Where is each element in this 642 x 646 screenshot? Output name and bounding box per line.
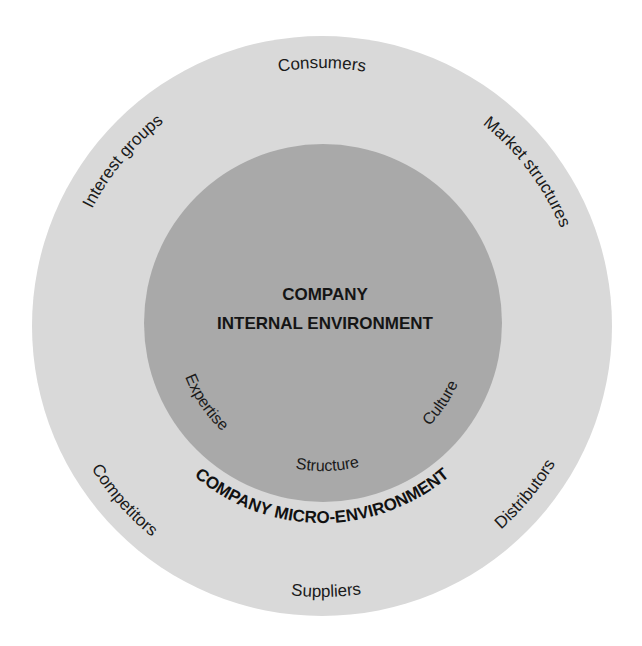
internal-environment-title-line1: COMPANY: [282, 285, 368, 304]
internal-environment-title-line2: INTERNAL ENVIRONMENT: [217, 314, 434, 333]
micro-environment-diagram: COMPANY INTERNAL ENVIRONMENT Interest gr…: [0, 0, 642, 646]
label-suppliers: Suppliers: [290, 579, 362, 601]
